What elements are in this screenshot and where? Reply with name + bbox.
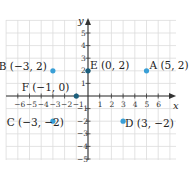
y-tick-label: 3 [81, 54, 86, 63]
y-tick-label: −4 [77, 142, 88, 151]
y-tick-label: 2 [81, 66, 86, 75]
y-tick-label: −2 [77, 117, 88, 126]
y-tick-label: −1 [77, 104, 88, 113]
point-a-label: A (5, 2) [149, 59, 189, 71]
plotted-points: A (5, 2)B (−3, 2)C (−3, −2)D (3, −2)E (0… [0, 59, 189, 129]
point-c-label: C (−3, −2) [7, 116, 64, 128]
point-f-label: F (−1, 0) [22, 81, 70, 93]
point-d-label: D (3, −2) [125, 117, 174, 129]
x-tick-label: −2 [61, 100, 72, 109]
x-tick-label: −5 [26, 100, 37, 109]
y-tick-label: 1 [81, 79, 86, 88]
point-b-label: B (−3, 2) [0, 60, 47, 72]
y-axis-label: y [77, 15, 84, 26]
x-tick-label: −3 [49, 100, 60, 109]
point-b-dot-icon [50, 68, 55, 73]
y-tick-label: 4 [81, 41, 86, 50]
x-axis-label: x [173, 100, 179, 111]
y-tick-label: −3 [77, 129, 88, 138]
x-tick-label: 1 [98, 100, 103, 109]
y-tick-label: −5 [77, 155, 88, 164]
y-tick-label: 5 [81, 29, 86, 38]
y-axis-arrow-icon [85, 18, 91, 25]
point-a-dot-icon [144, 68, 149, 73]
x-tick-label: 5 [145, 100, 150, 109]
coordinate-plane: xy −6−5−4−3−2−112345654321−1−2−3−4−5 A (… [0, 0, 196, 177]
x-tick-label: 3 [121, 100, 126, 109]
x-tick-label: −4 [38, 100, 49, 109]
x-tick-label: −6 [14, 100, 25, 109]
x-tick-label: 2 [109, 100, 114, 109]
x-axis-arrow-icon [169, 93, 176, 99]
x-tick-label: 4 [133, 100, 138, 109]
point-f-dot-icon [74, 93, 79, 98]
point-e-label: E (0, 2) [90, 59, 129, 71]
x-tick-label: 6 [156, 100, 161, 109]
